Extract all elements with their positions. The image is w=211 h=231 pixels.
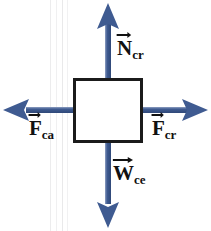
vector-overbar-icon: [112, 156, 133, 163]
vector-glyph-friction-right: F: [152, 118, 165, 139]
force-subscript: ca: [42, 127, 54, 142]
force-symbol: N: [117, 36, 132, 60]
force-subscript: cr: [165, 127, 177, 142]
vector-overbar-icon: [151, 111, 164, 118]
vector-overbar-icon: [28, 111, 41, 118]
force-labels-layer: N cr F cr F ca: [0, 0, 211, 231]
vector-glyph-normal: N: [117, 38, 132, 59]
vector-glyph-friction-left: F: [29, 118, 42, 139]
force-label-normal: N cr: [117, 38, 144, 59]
force-subscript: cr: [132, 47, 144, 62]
force-label-weight: W ce: [113, 163, 146, 184]
force-subscript: ce: [134, 172, 146, 187]
force-label-friction-left: F ca: [29, 118, 54, 139]
force-label-friction-right: F cr: [152, 118, 176, 139]
vector-overbar-icon: [116, 31, 131, 38]
force-symbol: F: [152, 116, 165, 140]
force-symbol: W: [113, 161, 134, 185]
free-body-diagram: N cr F cr F ca: [0, 0, 211, 231]
force-symbol: F: [29, 116, 42, 140]
vector-glyph-weight: W: [113, 163, 134, 184]
